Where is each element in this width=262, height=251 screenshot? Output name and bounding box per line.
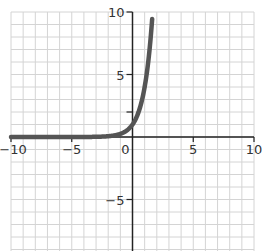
y-tick-label: 5 (116, 68, 124, 83)
tick-labels: −10−50510−5510 (0, 5, 262, 208)
exponential-graph: −10−50510−5510 (0, 0, 262, 251)
y-tick-label: 10 (108, 5, 125, 20)
x-tick-label: 10 (246, 142, 262, 157)
x-tick-label: 5 (189, 142, 197, 157)
x-tick-label: 0 (121, 142, 129, 157)
x-tick-label: −5 (62, 142, 81, 157)
y-tick-label: −5 (105, 193, 124, 208)
x-tick-label: −10 (0, 142, 27, 157)
